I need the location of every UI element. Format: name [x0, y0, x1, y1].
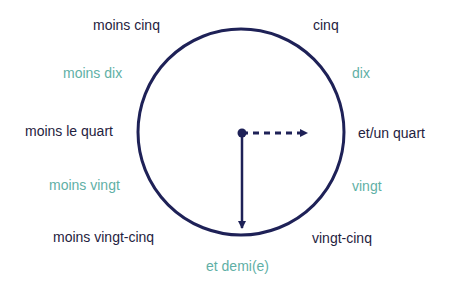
label-et-un-quart: et/un quart — [358, 125, 425, 141]
clock-center-dot — [238, 129, 247, 138]
label-cinq: cinq — [313, 17, 339, 33]
label-moins-vingt-cinq: moins vingt-cinq — [53, 229, 154, 245]
label-moins-cinq: moins cinq — [93, 17, 160, 33]
label-et-demi: et demi(e) — [206, 258, 269, 274]
label-moins-le-quart: moins le quart — [25, 123, 113, 139]
label-moins-dix: moins dix — [63, 65, 122, 81]
label-dix: dix — [352, 65, 370, 81]
label-moins-vingt: moins vingt — [49, 177, 120, 193]
label-vingt-cinq: vingt-cinq — [312, 230, 372, 246]
label-vingt: vingt — [352, 178, 382, 194]
